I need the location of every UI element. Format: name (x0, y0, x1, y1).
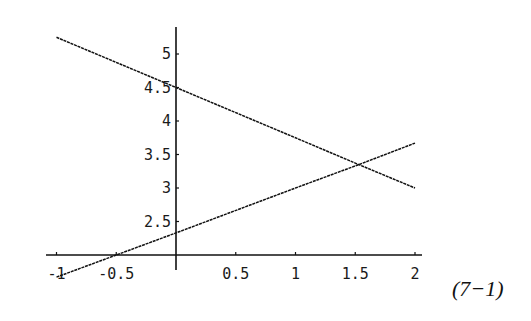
line-decreasing (57, 37, 416, 188)
axes (46, 27, 422, 270)
x-tick-label: 1.5 (342, 265, 369, 283)
x-tick-label: 0.5 (222, 265, 249, 283)
x-tick-label: -0.5 (98, 265, 134, 283)
y-tick-label: 2.5 (144, 213, 171, 231)
y-tick-label: 5 (162, 45, 171, 63)
x-tick-label: 2 (410, 265, 419, 283)
line-chart: -1-0.50.511.522.533.544.55 (0, 0, 531, 321)
y-tick-label: 3 (162, 179, 171, 197)
y-tick-label: 3.5 (144, 146, 171, 164)
series-lines (57, 37, 416, 277)
y-tick-label: 4.5 (144, 79, 171, 97)
x-tick-label: -1 (47, 265, 65, 283)
y-tick-label: 4 (162, 112, 171, 130)
x-tick-label: 1 (291, 265, 300, 283)
ticks: -1-0.50.511.522.533.544.55 (47, 45, 419, 283)
equation-number-label: (7−1) (452, 276, 504, 302)
line-increasing (57, 143, 416, 277)
